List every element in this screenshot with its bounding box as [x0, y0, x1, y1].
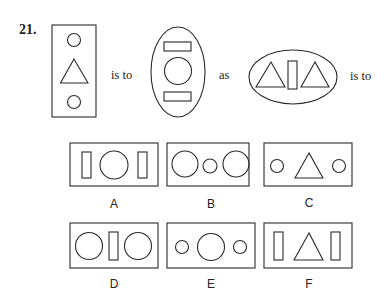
- option-a-frame[interactable]: [70, 143, 158, 186]
- small-circle-icon: [176, 241, 189, 254]
- option-d[interactable]: [70, 223, 158, 268]
- triangle-icon: [295, 153, 323, 178]
- question-number: 21.: [19, 22, 37, 37]
- option-e[interactable]: [167, 223, 255, 268]
- rectangle-icon: [138, 152, 147, 178]
- figure-1-frame: [52, 25, 96, 117]
- option-d-frame[interactable]: [70, 223, 158, 268]
- option-b[interactable]: [167, 143, 249, 186]
- triangle-icon: [256, 62, 285, 87]
- connector-is-to-2: is to: [350, 69, 371, 83]
- rectangle-icon: [274, 232, 283, 260]
- option-e-frame[interactable]: [167, 223, 255, 268]
- triangle-icon: [61, 59, 89, 83]
- circle-icon: [223, 151, 249, 177]
- circle-icon: [198, 234, 225, 261]
- option-a[interactable]: [70, 143, 158, 186]
- stem-figure-1: [52, 25, 96, 117]
- triangle-icon: [294, 233, 323, 260]
- circle-icon: [76, 233, 103, 260]
- figure-2-frame: [151, 27, 205, 117]
- rectangle-icon: [331, 232, 340, 260]
- small-circle-icon: [333, 160, 346, 173]
- option-b-frame[interactable]: [167, 143, 249, 186]
- rectangle-icon: [164, 42, 191, 51]
- option-c[interactable]: [264, 143, 352, 186]
- option-c-label[interactable]: C: [305, 196, 314, 210]
- option-f-frame[interactable]: [264, 223, 352, 268]
- option-a-label[interactable]: A: [110, 197, 118, 211]
- option-f[interactable]: [264, 223, 352, 268]
- option-e-label[interactable]: E: [207, 277, 215, 291]
- stem-figure-2: [151, 27, 205, 117]
- circle-icon: [125, 233, 152, 260]
- small-circle-icon: [68, 96, 81, 109]
- small-circle-icon: [271, 160, 284, 173]
- connector-as: as: [219, 68, 230, 82]
- circle-icon: [100, 151, 128, 179]
- option-f-label[interactable]: F: [305, 277, 312, 291]
- small-circle-icon: [68, 34, 81, 47]
- rectangle-icon: [288, 61, 297, 89]
- option-c-frame[interactable]: [264, 143, 352, 186]
- triangle-icon: [301, 62, 329, 87]
- analogy-question: 21. is to as is to A B C D E F: [0, 0, 389, 294]
- circle-icon: [165, 58, 192, 85]
- option-d-label[interactable]: D: [110, 277, 119, 291]
- small-circle-icon: [234, 241, 247, 254]
- rectangle-icon: [164, 92, 191, 101]
- connector-is-to-1: is to: [111, 68, 132, 82]
- small-circle-icon: [203, 159, 217, 173]
- option-b-label[interactable]: B: [207, 197, 215, 211]
- stem-figure-3: [249, 50, 337, 104]
- rectangle-icon: [82, 152, 91, 178]
- circle-icon: [172, 151, 198, 177]
- rectangle-icon: [109, 232, 118, 260]
